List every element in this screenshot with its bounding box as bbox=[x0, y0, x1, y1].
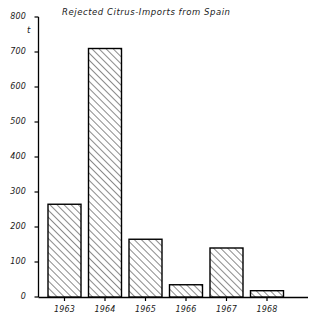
x-axis-tick-label: 1964 bbox=[85, 305, 125, 314]
chart-container: Rejected Citrus-Imports from Spain t 010… bbox=[0, 0, 315, 325]
x-axis-tick-label: 1966 bbox=[166, 305, 206, 314]
y-axis-tick-label: 500 bbox=[0, 117, 26, 126]
y-axis-tick-label: 400 bbox=[0, 152, 26, 161]
x-axis-tick-label: 1963 bbox=[45, 305, 85, 314]
bar-hatch-fill bbox=[170, 285, 203, 297]
y-axis-tick-label: 100 bbox=[0, 257, 26, 266]
bar-hatch-fill bbox=[251, 291, 284, 297]
bar-hatch-fill bbox=[89, 49, 122, 298]
y-axis-tick-label: 700 bbox=[0, 47, 26, 56]
bar-hatch-fill bbox=[48, 204, 81, 297]
y-axis-tick-label: 300 bbox=[0, 187, 26, 196]
y-axis-tick-label: 200 bbox=[0, 222, 26, 231]
y-axis-tick-label: 600 bbox=[0, 82, 26, 91]
plot-area bbox=[0, 0, 315, 325]
x-axis-tick-label: 1965 bbox=[126, 305, 166, 314]
x-axis-tick-label: 1967 bbox=[207, 305, 247, 314]
bar-hatch-fill bbox=[129, 239, 162, 297]
bars-group bbox=[48, 49, 284, 298]
y-axis-tick-label: 0 bbox=[0, 292, 26, 301]
x-axis-tick-label: 1968 bbox=[247, 305, 287, 314]
y-axis-tick-label: 800 bbox=[0, 12, 26, 21]
bar-hatch-fill bbox=[210, 248, 243, 297]
